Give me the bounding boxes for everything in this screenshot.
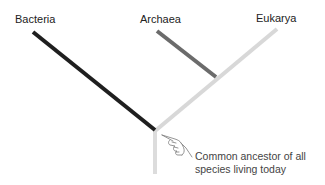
label-archaea: Archaea bbox=[140, 13, 181, 25]
annotation-line-1: Common ancestor of all bbox=[195, 150, 306, 163]
common-ancestor-annotation: Common ancestor of all species living to… bbox=[195, 150, 306, 176]
pointing-hand-icon bbox=[162, 135, 192, 157]
branch-bacteria bbox=[33, 32, 155, 130]
label-bacteria: Bacteria bbox=[15, 13, 55, 25]
branch-archaea bbox=[157, 31, 216, 77]
label-eukarya: Eukarya bbox=[256, 12, 296, 24]
annotation-line-2: species living today bbox=[195, 163, 306, 176]
